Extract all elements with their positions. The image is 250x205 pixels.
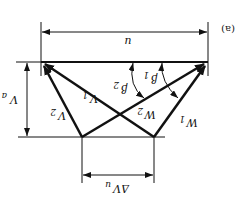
beta2-arc: [132, 63, 144, 98]
svg-text:V: V: [89, 92, 98, 105]
w2-label: W 2: [137, 106, 156, 121]
svg-text:2: 2: [50, 107, 57, 117]
beta2-label: β 2: [113, 80, 128, 95]
svg-text:β: β: [121, 82, 128, 95]
v2-label: V 2: [50, 107, 66, 122]
svg-text:V: V: [9, 93, 18, 106]
dvu-label: ΔV u: [105, 180, 130, 195]
svg-text:W: W: [185, 116, 198, 129]
va-label: V a: [2, 91, 18, 106]
v1-label: V 1: [82, 90, 98, 105]
axial-velocity-dimension: V a: [2, 62, 41, 136]
svg-text:W: W: [143, 108, 156, 121]
svg-text:a: a: [2, 91, 7, 101]
beta1-label: β 1: [143, 70, 158, 85]
svg-text:2: 2: [113, 80, 120, 90]
svg-text:1: 1: [179, 114, 185, 124]
svg-text:2: 2: [137, 106, 144, 116]
svg-text:u: u: [105, 180, 111, 190]
svg-text:β: β: [151, 72, 158, 85]
panel-label: (a): [221, 24, 235, 35]
whirl-change-dimension: ΔV u: [82, 137, 154, 195]
svg-text:1: 1: [82, 90, 88, 100]
svg-text:V: V: [57, 109, 66, 122]
w1-label: W 1: [179, 114, 197, 129]
blade-speed-dimension: u: [41, 22, 208, 76]
svg-text:1: 1: [143, 70, 149, 80]
u-label: u: [124, 35, 131, 48]
velocity-triangle-diagram: u (a) V a V 2 V 1 W 2 W 1 β 2: [0, 0, 250, 205]
svg-text:ΔV: ΔV: [112, 182, 130, 195]
